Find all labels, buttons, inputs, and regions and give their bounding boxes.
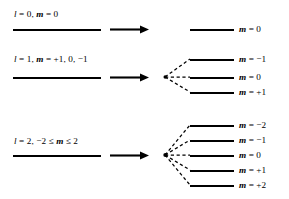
left-label-l0: l = 0, m = 0 [14,10,58,19]
split-level-l1-m-plus1 [190,92,234,94]
m-value: = −1 [246,135,266,145]
split-level-label-l1-m-plus1: m = +1 [239,88,266,97]
quantum-number-l-value: = 1, [17,54,34,64]
energy-level-diagram: l = 0, m = 0 m = 0 l = 1, m = +1, 0, −1 [0,0,289,199]
quantum-number-m-range: ≤ 2 [63,136,78,146]
split-level-l2-m-plus2 [190,185,234,187]
split-level-label-l1-m-minus1: m = −1 [239,55,266,64]
split-arrow-l1 [110,72,149,83]
split-level-l2-m-plus1 [190,170,234,172]
split-arrow-l0 [110,24,149,35]
split-level-l2-m-minus2 [190,125,234,127]
m-value: = 0 [246,72,261,82]
m-value: = −2 [246,120,266,130]
unsplit-level-l2 [13,155,101,157]
m-value: = +1 [246,165,266,175]
split-level-label-l2-m-minus2: m = −2 [239,121,266,130]
m-value: = 0 [246,150,261,160]
quantum-number-m-value: = +1, 0, −1 [43,54,87,64]
m-value: = +2 [246,180,266,190]
unsplit-level-l0 [13,29,101,31]
split-level-l1-m0 [190,77,234,79]
split-level-l2-m-minus1 [190,140,234,142]
left-label-l1: l = 1, m = +1, 0, −1 [14,55,88,64]
split-level-l1-m-minus1 [190,59,234,61]
m-value: = 0 [246,24,261,34]
m-value: = +1 [246,87,266,97]
split-fan-l2 [163,120,193,190]
split-level-label-l2-m-minus1: m = −1 [239,136,266,145]
split-fan-l1 [163,55,193,99]
quantum-number-m-value: = 0 [43,9,58,19]
split-level-label-l1-m0: m = 0 [239,73,261,82]
split-level-l0-m0 [190,29,234,31]
unsplit-level-l1 [13,77,101,79]
split-arrow-l2 [110,150,149,161]
left-label-l2: l = 2, −2 ≤ m ≤ 2 [14,137,78,146]
quantum-number-l-value: = 2, −2 ≤ [17,136,56,146]
split-level-label-l2-m-plus2: m = +2 [239,181,266,190]
m-value: = −1 [246,54,266,64]
split-level-label-l2-m-plus1: m = +1 [239,166,266,175]
split-level-label-l2-m0: m = 0 [239,151,261,160]
split-level-l2-m0 [190,155,234,157]
split-level-label-l0-m0: m = 0 [239,25,261,34]
quantum-number-l-value: = 0, [17,9,34,19]
